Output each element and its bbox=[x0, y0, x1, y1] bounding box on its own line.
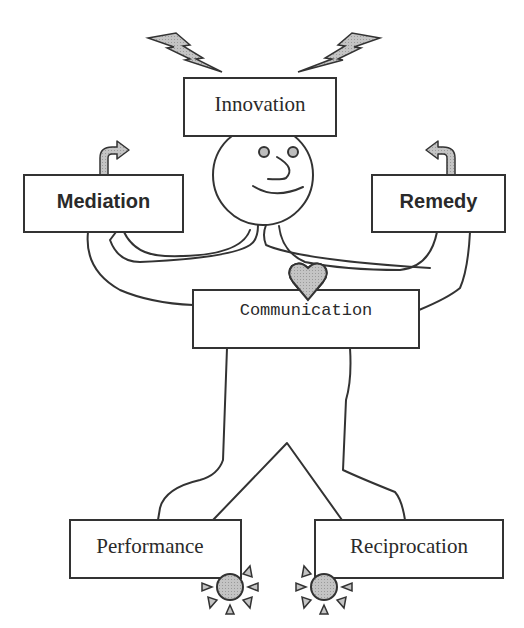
left-eye bbox=[259, 147, 269, 157]
innovation-label: Innovation bbox=[184, 78, 336, 130]
right-arm bbox=[419, 232, 470, 310]
right-eye bbox=[288, 147, 298, 157]
reciprocation-label: Reciprocation bbox=[315, 520, 503, 572]
performance-label: Performance bbox=[70, 520, 230, 572]
nose bbox=[268, 157, 289, 179]
left-leg-outer bbox=[158, 348, 227, 520]
mouth bbox=[253, 186, 303, 193]
crotch bbox=[213, 443, 342, 520]
curved-arrow-right-icon bbox=[100, 141, 129, 175]
head-outline bbox=[213, 125, 313, 225]
remedy-label: Remedy bbox=[372, 175, 505, 227]
left-arm bbox=[88, 232, 193, 305]
mediation-label: Mediation bbox=[24, 175, 183, 227]
lightning-bolt-left-icon bbox=[148, 33, 222, 72]
right-leg-outer bbox=[343, 348, 405, 520]
curved-arrow-left-icon bbox=[426, 141, 455, 175]
lightning-bolt-right-icon bbox=[298, 33, 380, 72]
communication-label: Communication bbox=[193, 292, 419, 328]
